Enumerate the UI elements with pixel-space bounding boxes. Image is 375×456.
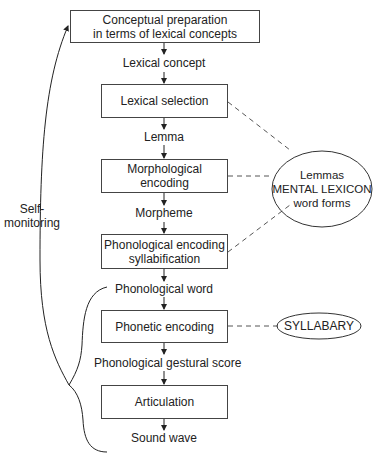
syllabary: SYLLABARY [277, 313, 361, 339]
stage-phonetic-encoding: Phonetic encoding [101, 310, 228, 343]
mental-lexicon: Lemmas MENTAL LEXICON word forms [272, 151, 372, 227]
monitoring-label-line: monitoring [4, 216, 60, 230]
stage-morphological-encoding: Morphological encoding [101, 159, 228, 193]
lexicon-label: MENTAL LEXICON [272, 182, 371, 196]
output-sound-wave: Sound wave [104, 431, 224, 445]
lexicon-label: Lemmas [300, 168, 344, 182]
self-monitoring-label: Self- monitoring [4, 202, 60, 230]
stage-label: Morphological [127, 162, 202, 176]
output-morpheme: Morpheme [104, 206, 224, 220]
syllabary-label: SYLLABARY [284, 319, 354, 333]
stage-conceptual-preparation: Conceptual preparation in terms of lexic… [70, 10, 260, 43]
stage-label: Conceptual preparation [103, 13, 228, 27]
output-lexical-concept: Lexical concept [104, 56, 224, 70]
stage-phonological-encoding: Phonological encoding syllabification [101, 234, 228, 269]
stage-label: Phonetic encoding [115, 320, 214, 334]
stage-label: in terms of lexical concepts [93, 27, 237, 41]
output-phonological-word: Phonological word [104, 282, 224, 296]
lexicon-label: word forms [294, 196, 351, 210]
stage-articulation: Articulation [101, 385, 228, 419]
stage-lexical-selection: Lexical selection [101, 84, 228, 118]
stage-label: syllabification [129, 252, 200, 266]
stage-label: encoding [140, 176, 189, 190]
output-lemma: Lemma [104, 130, 224, 144]
stage-label: Phonological encoding [104, 238, 225, 252]
stage-label: Articulation [135, 395, 194, 409]
monitoring-label-line: Self- [4, 202, 60, 216]
output-phonological-gestural-score: Phonological gestural score [94, 356, 234, 370]
stage-label: Lexical selection [120, 94, 208, 108]
